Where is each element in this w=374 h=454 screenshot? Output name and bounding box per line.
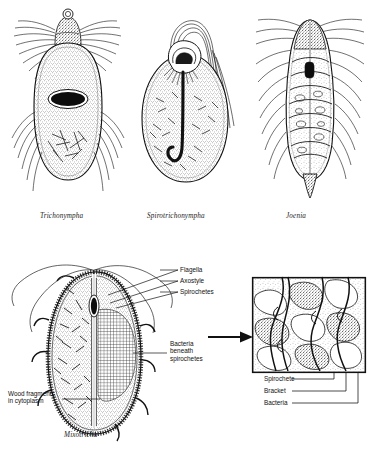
joenia-apical-cap [294,20,326,50]
trichonympha-apical-cap [55,9,81,45]
caption-trichonympha: Trichonympha [40,212,83,220]
trichonympha-body [34,43,102,180]
caption-spirotrichonympha: Spirotrichonympha [147,212,205,220]
caption-joenia: Joenia [286,212,306,220]
callout-bacteria-line-3: spirochetes [170,355,203,362]
inset-label-bacteria: Bacteria [264,399,287,406]
callout-bacteria-leader [133,348,169,358]
inset-bacteria-blobs [254,280,361,371]
callout-spirochetes: Spirochetes [180,288,214,295]
callout-wood-fragments: Wood fragments in cytoplasm [8,390,55,405]
arrow-right-icon [208,330,256,344]
inset-label-leaders [292,373,366,407]
callout-flagella: Flagella [180,266,202,273]
inset-label-spirochete: Spirochete [264,375,295,382]
mixotricha-nucleus [89,295,99,317]
callout-bacteria-beneath-spirochetes: Bacteria beneath spirochetes [170,340,203,362]
organism-joenia [248,6,374,202]
callout-axostyle: Axostyle [180,277,204,284]
callout-wood-line-2: in cytoplasm [8,397,55,404]
callout-wood-leader [62,394,102,404]
joenia-nucleus [305,62,314,78]
caption-mixotricha: Mixotricha [64,431,97,439]
trichonympha-nucleus [48,90,88,109]
callout-wood-line-1: Wood fragments [8,390,55,397]
organism-spirotrichonympha [128,6,248,202]
callout-bacteria-line-1: Bacteria [170,340,203,347]
inset-label-bracket: Bracket [264,387,286,394]
inset-magnified-detail [252,277,366,373]
callout-bacteria-line-2: beneath [170,347,203,354]
joenia-tail [303,174,317,198]
organism-trichonympha [8,4,138,202]
mixotricha-callout-leaders [108,262,186,310]
